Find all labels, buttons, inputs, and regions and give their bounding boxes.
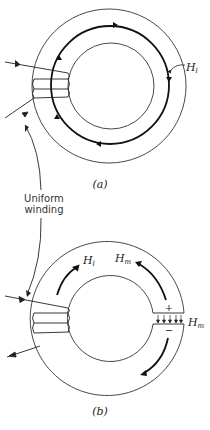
panel-b: + − Hm Hl Hm (b)	[5, 242, 205, 418]
field-line-h-l	[51, 26, 169, 144]
minus-sign: −	[165, 325, 173, 336]
uniform-winding-line1: Uniform	[24, 193, 64, 204]
toroid-outer-edge-gapped	[30, 242, 184, 396]
h-m-label-top: Hm	[114, 252, 132, 266]
h-l-label-b: Hl	[82, 254, 95, 268]
toroid-inner-edge	[68, 43, 154, 129]
panel-a: Hl (a)	[5, 9, 198, 191]
uniform-winding-line2: winding	[24, 204, 63, 215]
uniform-winding-callout: Uniform winding	[24, 125, 64, 297]
toroid-outer-edge	[32, 9, 186, 163]
h-m-arrow-upper	[139, 264, 166, 300]
h-l-arrow-b	[57, 267, 77, 295]
h-l-label-a: Hl	[185, 61, 198, 75]
winding-coil-b	[5, 296, 70, 357]
plus-sign: +	[165, 302, 173, 313]
h-m-label-gap: Hm	[187, 316, 205, 330]
gap-field-arrows	[157, 315, 183, 323]
winding-coil-a	[5, 61, 70, 118]
toroid-figure: Hl (a) Uniform winding	[0, 0, 210, 430]
toroid-inner-edge-gapped	[67, 276, 153, 362]
h-m-arrow-lower	[144, 338, 168, 373]
caption-b: (b)	[92, 405, 108, 418]
caption-a: (a)	[92, 178, 107, 191]
